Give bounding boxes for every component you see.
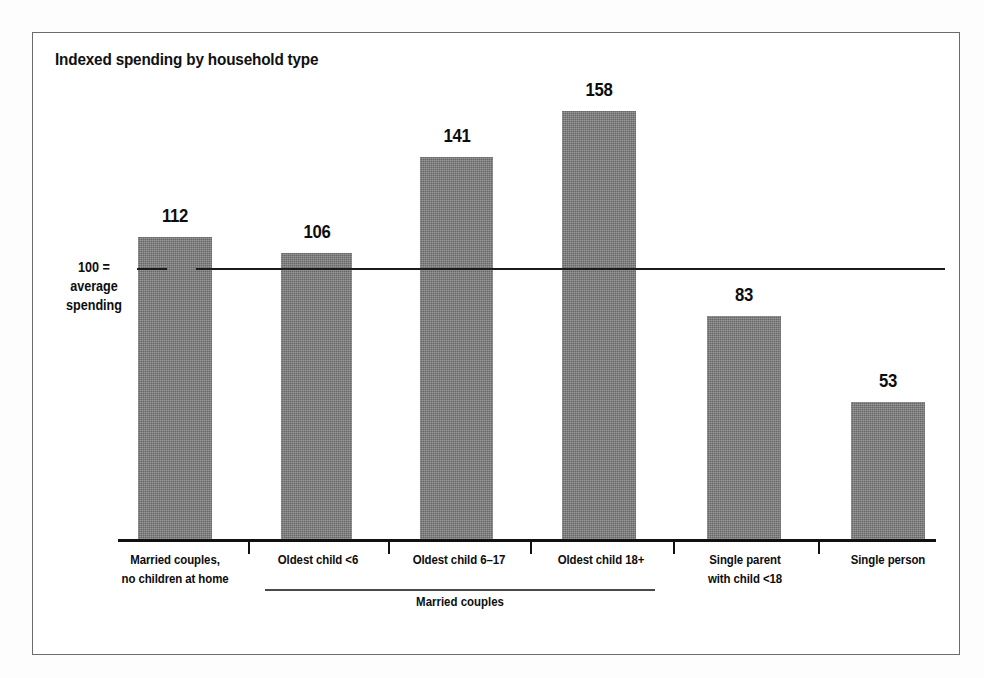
reference-line-100 [196,268,945,270]
bar-single-person [851,402,925,539]
category-label-married-no-children: Married couples, no children at home [112,550,239,588]
category-label-single-person: Single person [832,550,945,569]
category-label-line-1: Married couples, [112,550,239,569]
category-label-oldest-child-18-plus: Oldest child 18+ [543,550,659,569]
group-bracket-line [265,589,655,591]
bar-oldest-child-6-17 [420,157,493,539]
category-label-line-1: Oldest child 6–17 [401,550,517,569]
axis-tick [818,542,820,554]
bar-oldest-child-under-6 [281,253,352,539]
y-axis-label-line-2: average [56,277,132,296]
bar-value-label: 158 [564,79,634,101]
x-axis-baseline [118,539,936,542]
category-label-line-2: no children at home [112,569,239,588]
y-axis-label-line-3: spending [56,296,132,315]
bar-value-label: 53 [853,370,923,392]
page-canvas: Indexed spending by household type 100 =… [0,0,984,678]
category-label-line-1: Oldest child 18+ [543,550,659,569]
group-bracket-label: Married couples [288,594,631,609]
bar-value-label: 112 [140,205,210,227]
axis-tick [388,542,390,554]
axis-tick [248,542,250,554]
reference-line-stub [137,268,167,270]
category-label-line-1: Oldest child <6 [262,550,375,569]
axis-tick [673,542,675,554]
category-label-line-2: with child <18 [687,569,803,588]
category-label-line-1: Single person [832,550,945,569]
bar-single-parent [707,316,781,539]
category-label-oldest-child-under-6: Oldest child <6 [262,550,375,569]
category-label-single-parent: Single parent with child <18 [687,550,803,588]
bar-value-label: 106 [282,221,352,243]
category-label-oldest-child-6-17: Oldest child 6–17 [401,550,517,569]
bar-married-no-children [138,237,212,539]
bar-oldest-child-18-plus [562,111,636,539]
y-axis-label-line-1: 100 = [56,258,132,277]
y-axis-label: 100 = average spending [56,258,132,315]
chart-plot-area: 100 = average spending 112 106 141 158 8… [0,0,984,678]
bar-value-label: 83 [709,284,779,306]
axis-tick [530,542,532,554]
bar-value-label: 141 [422,125,492,147]
category-label-line-1: Single parent [687,550,803,569]
